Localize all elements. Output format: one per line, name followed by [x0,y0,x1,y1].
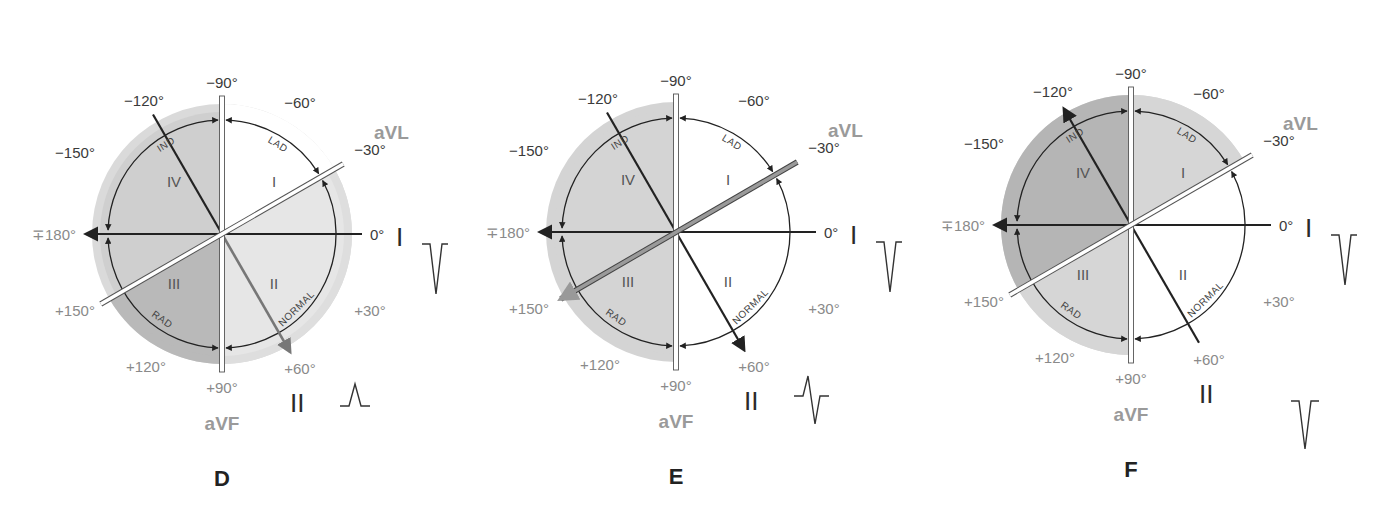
quadrant-iv-label: IV [1076,164,1090,181]
quadrant-iv-label: IV [621,171,635,188]
quadrant-ii-label: II [270,275,278,292]
label-minus-30: −30° [354,141,385,158]
panel-label-f: F [1124,457,1137,482]
label-minus-150: −150° [55,144,95,161]
label-minus-60: −60° [738,92,769,109]
label-minus-60: −60° [284,94,315,111]
label-plus-120: +120° [126,358,166,375]
quadrant-iv-label: IV [167,173,181,190]
lead-i-label: I [1305,213,1312,243]
lead-avf-label: aVF [659,411,694,432]
hexaxial-panel-f: −90°−120°−60°−150°−30°∓180°0°+150°+30°+1… [941,65,1357,482]
lead-ii-qrs-waveform [1291,401,1319,449]
lead-i-qrs-waveform [1331,235,1357,285]
quadrant-i-label: I [272,173,276,190]
quadrant-iii-label: III [622,273,635,290]
label-plus-60: +60° [284,360,315,377]
label-minus-60: −60° [1193,85,1224,102]
quadrant-iii-label: III [168,275,181,292]
lead-avl-label: aVL [1283,113,1318,134]
lead-ii-label: II [1199,379,1213,409]
panel-label-d: D [214,466,230,491]
label-minus-30: −30° [808,139,839,156]
panel-label-e: E [669,464,684,489]
label-minus-120: −120° [124,92,164,109]
lead-avl-label: aVL [374,122,409,143]
label-minus-150: −150° [509,142,549,159]
label-minus-90: −90° [206,74,237,91]
lead-i-qrs-waveform [876,242,902,292]
quadrant-i-label: I [1181,164,1185,181]
lead-ii-qrs-waveform [340,384,370,406]
label-minus-120: −120° [578,90,618,107]
quadrant-iii-label: III [1077,266,1090,283]
label-plus-120: +120° [580,356,620,373]
label-0: 0° [1279,217,1293,234]
label-plus-90: +90° [1115,370,1146,387]
label-plus-30: +30° [354,302,385,319]
lead-avf-label: aVF [1114,404,1149,425]
label-plus-60: +60° [738,358,769,375]
label-180: ∓180° [941,217,985,234]
label-plus-30: +30° [808,300,839,317]
lead-i-label: I [850,220,857,250]
label-0: 0° [824,224,838,241]
label-minus-120: −120° [1033,83,1073,100]
label-0: 0° [370,226,384,243]
lead-i-label: I [396,222,403,252]
label-minus-150: −150° [964,135,1004,152]
label-minus-90: −90° [1115,65,1146,82]
hexaxial-panel-e: −90°−120°−60°−150°−30°∓180°0°+150°+30°+1… [486,72,902,489]
lead-ii-qrs-waveform [794,376,829,424]
quadrant-i-label: I [726,171,730,188]
label-plus-150: +150° [509,300,549,317]
label-180: ∓180° [32,226,76,243]
quadrant-ii-label: II [724,273,732,290]
label-180: ∓180° [486,224,530,241]
label-plus-120: +120° [1035,349,1075,366]
hexaxial-figure: −90°−120°−60°−150°−30°∓180°0°+150°+30°+1… [0,0,1385,526]
hexaxial-panel-d: −90°−120°−60°−150°−30°∓180°0°+150°+30°+1… [32,74,448,491]
label-plus-150: +150° [964,293,1004,310]
label-plus-60: +60° [1193,351,1224,368]
lead-i-qrs-waveform [422,244,448,294]
label-plus-90: +90° [206,379,237,396]
label-plus-30: +30° [1263,293,1294,310]
lead-avl-label: aVL [828,120,863,141]
lead-ii-label: II [744,386,758,416]
label-minus-30: −30° [1263,132,1294,149]
label-minus-90: −90° [660,72,691,89]
label-plus-150: +150° [55,302,95,319]
lead-ii-label: II [290,388,304,418]
quadrant-ii-label: II [1179,266,1187,283]
lead-avf-label: aVF [205,413,240,434]
label-plus-90: +90° [660,377,691,394]
